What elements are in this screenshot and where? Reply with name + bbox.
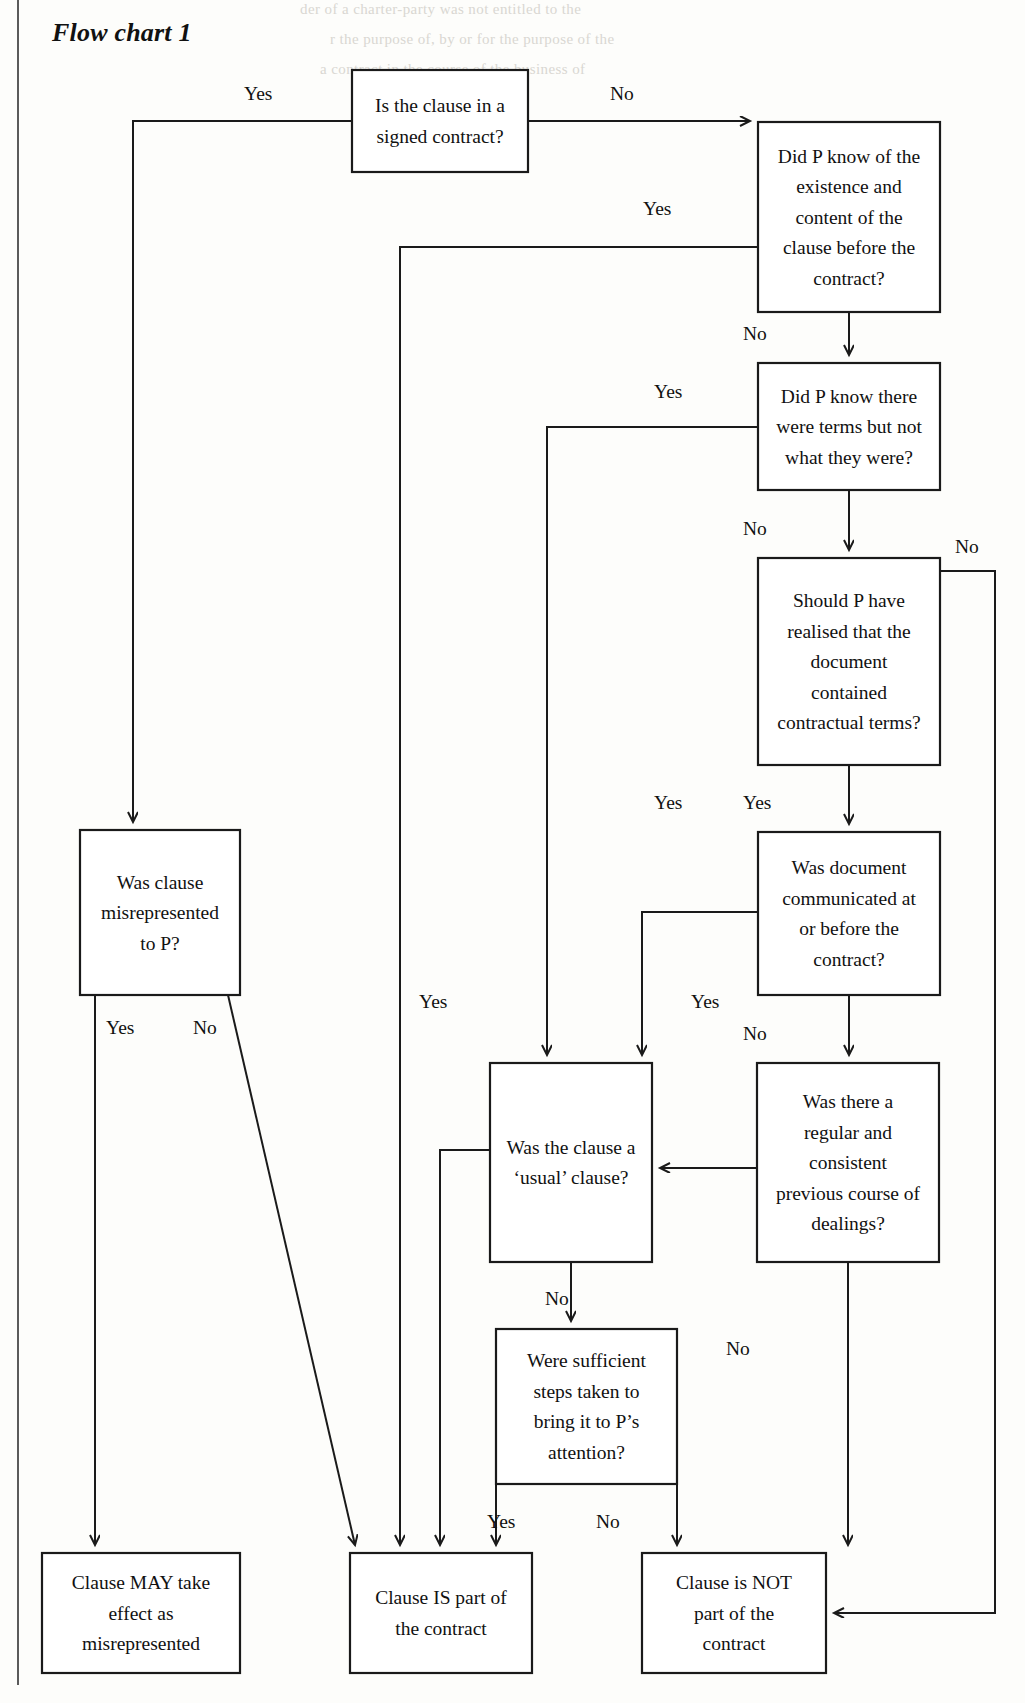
edge-label-n7-n8: No	[545, 1288, 569, 1309]
flowchart-node-n2[interactable]: Did P know of theexistence andcontent of…	[758, 122, 940, 312]
page-sheet: der of a charter-party was not entitled …	[0, 0, 1025, 1703]
edge-label-n5-n6: No	[743, 1023, 767, 1044]
edge-label-n2-n11: Yes	[643, 198, 671, 219]
edge-label-n4-n5: Yes	[743, 792, 771, 813]
edge-label-n4-n12: No	[955, 536, 979, 557]
edge-label-n8-n12: No	[596, 1511, 620, 1532]
flowchart-node-n10[interactable]: Clause MAY takeeffect asmisrepresented	[42, 1553, 240, 1673]
flowchart-node-n3[interactable]: Did P know therewere terms but notwhat t…	[758, 363, 940, 490]
node-layer: Is the clause in asigned contract?Did P …	[42, 70, 940, 1673]
flowchart-node-n7[interactable]: Was the clause a‘usual’ clause?	[490, 1063, 652, 1262]
flowchart-node-n4[interactable]: Should P haverealised that thedocumentco…	[758, 558, 940, 765]
edge-label-n8-n11: Yes	[487, 1511, 515, 1532]
edge-label-n9-n11: No	[193, 1017, 217, 1038]
edge-label-n1-n2: No	[610, 83, 634, 104]
edge-label-n6-n12: No	[726, 1338, 750, 1359]
node-box	[350, 1553, 532, 1673]
flowchart-node-n6[interactable]: Was there aregular andconsistentprevious…	[757, 1063, 939, 1262]
edge-n7-yes-to-n11	[440, 1150, 490, 1545]
edge-label-n5-n7: Yes	[654, 792, 682, 813]
node-label: Did P know therewere terms but notwhat t…	[776, 386, 922, 468]
flowchart-node-n11[interactable]: Clause IS part ofthe contract	[350, 1553, 532, 1673]
edge-n5-yes-to-n7	[642, 912, 758, 1055]
edge-label-n6-n7: Yes	[691, 991, 719, 1012]
edge-n9-no-to-n11	[228, 995, 355, 1545]
edge-n3-yes-to-n11	[547, 427, 758, 1055]
edge-label-n7-n11: Yes	[419, 991, 447, 1012]
flowchart-node-n8[interactable]: Were sufficientsteps taken tobring it to…	[496, 1329, 677, 1484]
edge-label-n2-n3: No	[743, 323, 767, 344]
edge-n1-yes-to-n9	[133, 121, 352, 822]
node-box	[758, 832, 940, 995]
flowchart-node-n12[interactable]: Clause is NOTpart of thecontract	[642, 1553, 826, 1673]
edge-label-n3-n4: No	[743, 518, 767, 539]
node-box	[490, 1063, 652, 1262]
node-box	[352, 70, 528, 172]
edge-label-n1-n9: Yes	[244, 83, 272, 104]
flowchart-node-n1[interactable]: Is the clause in asigned contract?	[352, 70, 528, 172]
edge-label-n3-n11: Yes	[654, 381, 682, 402]
flowchart-node-n9[interactable]: Was clausemisrepresentedto P?	[80, 830, 240, 995]
flowchart-node-n5[interactable]: Was documentcommunicated ator before the…	[758, 832, 940, 995]
edge-label-n9-n10: Yes	[106, 1017, 134, 1038]
flowchart-canvas: Is the clause in asigned contract?Did P …	[0, 0, 1025, 1703]
